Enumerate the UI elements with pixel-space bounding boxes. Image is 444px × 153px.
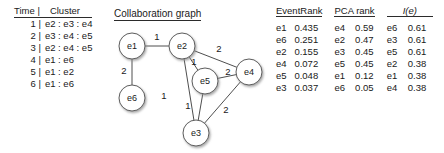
cluster-time-cell: 4 | [14,54,44,66]
cluster-table: Time | Cluster 1 |e2 : e3 : e42 |e3 : e4… [14,6,92,90]
entity-cell: e6 [276,34,294,46]
graph-edge-weight: 1 [191,56,196,67]
entity-cell: e4 [387,82,408,94]
collaboration-graph-panel: Collaboration graph e1e2e6e5e4e3 1221121… [108,6,273,153]
graph-node-layer: e1e2e6e5e4e3 [119,33,262,146]
cluster-time-cell: 5 | [14,66,44,78]
cluster-table-panel: Time | Cluster 1 |e2 : e3 : e42 |e3 : e4… [14,6,92,90]
eventrank-table-body: e10.435e60.251e20.155e40.072e50.048e30.0… [276,22,322,95]
table-row: e40.38 [387,82,433,94]
entity-cell: e6 [334,82,355,94]
table-row: e30.45 [334,46,374,58]
graph-node-label: e1 [127,41,137,51]
rankings-panel: EventRank e10.435e60.251e20.155e40.072e5… [276,6,433,94]
ie-table: I(e) e60.61e30.61e50.61e20.38e10.38e40.3… [387,6,433,94]
value-cell: 0.61 [408,46,433,58]
graph-node-e5[interactable]: e5 [192,68,218,94]
value-cell: 0.037 [294,82,322,94]
cluster-table-body: 1 |e2 : e3 : e42 |e3 : e4 : e53 |e2 : e4… [14,17,92,90]
entity-cell: e3 [276,82,294,94]
cluster-table-row: 4 |e1 : e6 [14,54,92,66]
graph-edge-weight: 2 [225,66,230,77]
value-cell: 0.45 [355,58,375,70]
cluster-members-cell: e3 : e4 : e5 [44,30,93,42]
value-cell: 0.61 [408,22,433,34]
entity-cell: e6 [387,22,408,34]
graph-edge-weight: 1 [154,31,159,42]
table-row: e40.072 [276,58,322,70]
table-row: e20.155 [276,46,322,58]
cluster-table-row: 6 |e1 : e6 [14,78,92,90]
table-row: e40.59 [334,22,374,34]
graph-edge-weight: 1 [185,100,190,111]
table-row: e10.435 [276,22,322,34]
ie-caption: I(e) [387,6,433,17]
entity-cell: e3 [387,34,408,46]
graph-node-label: e2 [177,41,187,51]
graph-canvas: e1e2e6e5e4e3 12211212 [108,6,273,153]
ie-table-body: e60.61e30.61e50.61e20.38e10.38e40.38 [387,22,433,95]
value-cell: 0.048 [294,70,322,82]
graph-edge-weight: 2 [223,104,228,115]
value-cell: 0.38 [408,70,433,82]
entity-cell: e4 [276,58,294,70]
table-row: e10.12 [334,70,374,82]
cluster-time-cell: 2 | [14,30,44,42]
cluster-members-cell: e2 : e4 : e5 [44,42,93,54]
pca-rank-table: PCA rank e40.59e20.47e30.45e50.45e10.12e… [334,6,374,94]
value-cell: 0.38 [408,82,433,94]
table-row: e60.251 [276,34,322,46]
value-cell: 0.12 [355,70,375,82]
entity-cell: e4 [334,22,355,34]
cluster-members-cell: e2 : e3 : e4 [44,17,93,30]
cluster-table-header-row: Time | Cluster [14,6,92,17]
table-row: e10.38 [387,70,433,82]
table-row: e20.47 [334,34,374,46]
entity-cell: e2 [387,58,408,70]
graph-node-e1[interactable]: e1 [119,33,145,59]
graph-edge [198,94,203,120]
graph-node-e6[interactable]: e6 [119,85,145,111]
cluster-table-row: 1 |e2 : e3 : e4 [14,17,92,30]
value-cell: 0.251 [294,34,322,46]
cluster-time-cell: 3 | [14,42,44,54]
table-row: e60.61 [387,22,433,34]
cluster-members-cell: e1 : e2 [44,66,93,78]
entity-cell: e5 [334,58,355,70]
eventrank-caption: EventRank [276,6,322,17]
table-row: e50.61 [387,46,433,58]
cluster-members-cell: e1 : e6 [44,54,93,66]
value-cell: 0.61 [408,34,433,46]
graph-node-label: e6 [127,93,137,103]
value-cell: 0.47 [355,34,375,46]
cluster-time-cell: 6 | [14,78,44,90]
cluster-header-cluster: Cluster [44,6,93,17]
value-cell: 0.435 [294,22,322,34]
graph-node-label: e5 [200,76,210,86]
graph-edge-weight: 1 [161,90,166,101]
cluster-table-row: 3 |e2 : e4 : e5 [14,42,92,54]
entity-cell: e1 [276,22,294,34]
cluster-header-time: Time | [14,6,44,17]
table-row: e50.45 [334,58,374,70]
entity-cell: e2 [334,34,355,46]
pca-rank-table-body: e40.59e20.47e30.45e50.45e10.12e60.05 [334,22,374,95]
entity-cell: e3 [334,46,355,58]
graph-node-e3[interactable]: e3 [183,120,209,146]
value-cell: 0.155 [294,46,322,58]
value-cell: 0.45 [355,46,375,58]
graph-node-label: e3 [191,128,201,138]
graph-edge-weight: 2 [216,43,221,54]
pca-rank-caption: PCA rank [334,6,374,17]
value-cell: 0.05 [355,82,375,94]
cluster-members-cell: e1 : e6 [44,78,93,90]
graph-node-e4[interactable]: e4 [236,59,262,85]
value-cell: 0.072 [294,58,322,70]
cluster-table-row: 2 |e3 : e4 : e5 [14,30,92,42]
table-row: e20.38 [387,58,433,70]
cluster-time-cell: 1 | [14,17,44,30]
entity-cell: e5 [276,70,294,82]
entity-cell: e1 [387,70,408,82]
eventrank-table: EventRank e10.435e60.251e20.155e40.072e5… [276,6,322,94]
value-cell: 0.38 [408,58,433,70]
